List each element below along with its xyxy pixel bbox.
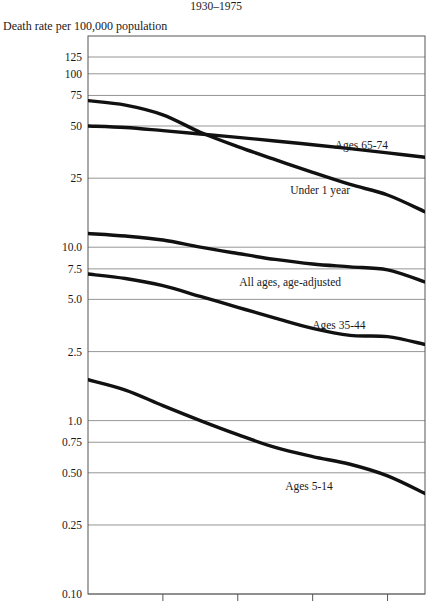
y-tick-label: 75 <box>71 89 83 101</box>
y-tick-label: 0.10 <box>62 588 82 600</box>
y-tick-label: 5.0 <box>68 293 83 305</box>
y-tick-label: 125 <box>65 51 83 63</box>
series-label: Ages 65-74 <box>335 139 389 152</box>
chart-title: 1930–1975 <box>190 0 242 12</box>
y-tick-label: 0.25 <box>62 519 82 531</box>
chart-canvas: 1930–1975 Death rate per 100,000 populat… <box>0 0 432 601</box>
y-axis-caption: Death rate per 100,000 population <box>3 19 167 33</box>
series-label: All ages, age-adjusted <box>239 276 341 289</box>
y-tick-label: 0.75 <box>62 436 82 448</box>
y-tick-label: 0.50 <box>62 467 82 479</box>
y-tick-label: 2.5 <box>68 346 83 358</box>
y-tick-label: 100 <box>65 68 83 80</box>
y-tick-label: 1.0 <box>68 415 83 427</box>
series-label: Ages 35-44 <box>312 319 366 332</box>
y-tick-label: 7.5 <box>68 263 83 275</box>
series-label: Under 1 year <box>290 184 350 197</box>
mortality-log-chart: 1930–1975 Death rate per 100,000 populat… <box>0 0 432 601</box>
series-label: Ages 5-14 <box>285 480 333 493</box>
y-tick-label: 50 <box>71 120 83 132</box>
y-tick-label: 25 <box>71 172 83 184</box>
y-tick-label: 10.0 <box>62 241 82 253</box>
